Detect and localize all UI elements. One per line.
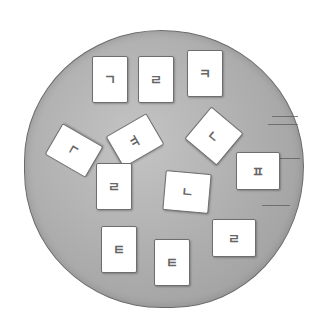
card-letter: ㅌ xyxy=(113,243,125,256)
plate-edge-streak xyxy=(262,205,290,206)
card-letter: ㄱ xyxy=(104,73,116,86)
letter-card[interactable]: ㅋ xyxy=(187,50,223,97)
card-letter: ㄹ xyxy=(228,232,240,245)
letter-card[interactable]: ㅌ xyxy=(101,226,137,273)
card-letter: ㄹ xyxy=(150,73,162,86)
card-letter: ㄹ xyxy=(108,180,120,193)
letter-card[interactable]: ㅌ xyxy=(154,239,190,286)
plate-edge-streak xyxy=(280,158,300,159)
letter-card[interactable]: ㄱ xyxy=(92,56,128,103)
card-letter: ㅌ xyxy=(166,256,178,269)
card-letter: ㄴ xyxy=(205,127,223,145)
letter-card[interactable]: ㄹ xyxy=(96,163,132,210)
letter-card[interactable]: ㄴ xyxy=(162,170,211,214)
plate-edge-streak xyxy=(272,116,298,117)
letter-card[interactable]: ㅍ xyxy=(236,152,280,190)
card-letter: ㅍ xyxy=(252,165,264,178)
letter-card[interactable]: ㄹ xyxy=(212,219,256,257)
card-letter: ㅠ xyxy=(126,132,143,149)
card-letter: ㄱ xyxy=(65,142,82,159)
card-letter: ㄴ xyxy=(180,185,193,199)
plate-edge-streak xyxy=(268,124,298,125)
card-letter: ㅋ xyxy=(199,67,211,80)
letter-card[interactable]: ㄹ xyxy=(138,56,174,103)
